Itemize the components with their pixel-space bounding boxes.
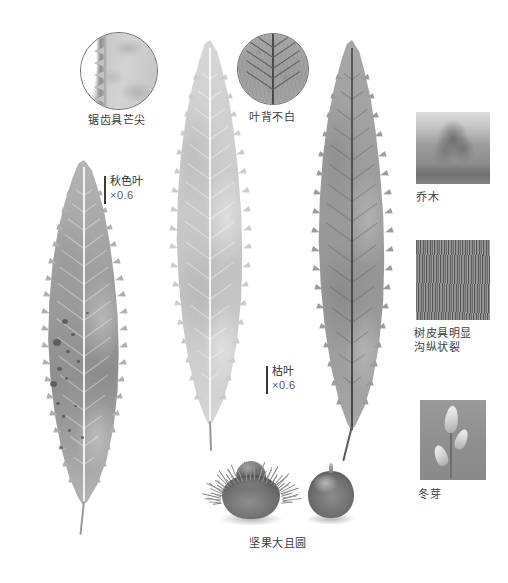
leaf-awn-tooth	[312, 208, 321, 216]
panel-caption-habit: 乔木	[416, 190, 439, 204]
scale-label-text: 秋色叶	[110, 175, 143, 187]
leaf-awn-tooth	[379, 303, 388, 311]
leaf-awn-tooth	[231, 130, 240, 138]
scale-bar-withered-leaf	[266, 366, 268, 394]
leaf-awn-tooth	[117, 359, 126, 367]
leaf-awn-tooth	[359, 399, 368, 407]
serrate-margin-texture	[81, 33, 157, 109]
leaf-awn-tooth	[107, 241, 116, 249]
leaf-awn-tooth	[238, 168, 247, 176]
awn-tooth	[95, 83, 104, 91]
awn-tooth	[95, 95, 104, 103]
detail-circle-serrate-margin	[80, 32, 158, 110]
leaf-awn-tooth	[172, 281, 181, 289]
panel-photo-habit	[416, 112, 490, 184]
burr-spine	[282, 501, 294, 504]
panel-photo-winter-bud	[420, 400, 486, 480]
leaf-awn-tooth	[218, 74, 227, 82]
winter-bud-scale	[444, 406, 460, 434]
panel-caption-winter-bud: 冬芽	[418, 487, 441, 501]
leaf-awn-tooth	[383, 208, 392, 216]
scale-label-autumn-leaf: 秋色叶 ×0.6	[110, 174, 143, 202]
leaf-awn-tooth	[384, 246, 393, 254]
leaf-mature-green	[158, 40, 262, 425]
leaf-awn-tooth	[239, 281, 248, 289]
leaf-petiole	[342, 426, 353, 461]
leaf-awn-tooth	[242, 243, 251, 251]
leaf-awn-tooth	[381, 284, 390, 292]
leaf-awn-tooth	[382, 189, 391, 197]
leaf-awn-tooth	[373, 131, 382, 139]
nut-tip	[329, 463, 333, 473]
chestnut-nut	[308, 462, 354, 520]
leaf-awn-tooth	[116, 376, 125, 384]
scale-label-withered-leaf: 枯叶 ×0.6	[272, 364, 296, 392]
leaf-awn-tooth	[384, 227, 393, 235]
leaf-awn-tooth	[241, 206, 250, 214]
leaf-awn-tooth	[377, 150, 386, 158]
fruit-caption: 坚果大且圆	[249, 536, 307, 550]
leaf-awn-tooth	[118, 308, 127, 316]
detail-circle-serrate-margin-caption: 锯齿具芒尖	[88, 113, 146, 127]
leaf-awn-tooth	[235, 149, 244, 157]
leaf-spot	[68, 429, 71, 432]
scale-magnification: ×0.6	[110, 188, 143, 202]
leaf-awn-tooth	[111, 258, 120, 266]
leaf-awn-tooth	[360, 74, 369, 82]
chestnut-burr	[216, 459, 286, 521]
botanical-plate: 锯齿具芒尖 叶背不白 秋色叶 ×0.6 枯叶 ×0.6	[0, 0, 508, 583]
leaf-awn-tooth	[322, 131, 331, 139]
scale-magnification: ×0.6	[272, 378, 296, 392]
leaf-awn-tooth	[181, 338, 190, 346]
leaf-awn-tooth	[41, 325, 50, 333]
leaf-awn-tooth	[41, 342, 50, 350]
leaf-awn-tooth	[180, 130, 189, 138]
leaf-awn-tooth	[380, 170, 389, 178]
leaf-awn-tooth	[383, 265, 392, 273]
leaf-awn-tooth	[93, 190, 102, 198]
scale-bar-autumn-leaf	[104, 176, 106, 204]
leaf-awn-tooth	[228, 111, 237, 119]
leaf-awn-tooth	[102, 444, 111, 452]
leaf-awn-tooth	[68, 477, 77, 485]
leaf-awn-tooth	[103, 224, 112, 232]
panel-caption-bark-line1: 树皮具明显	[414, 326, 472, 340]
leaf-awn-tooth	[98, 207, 107, 215]
scale-label-text: 枯叶	[272, 365, 294, 377]
leaf-awn-tooth	[370, 112, 379, 120]
leaf-petiole	[209, 421, 212, 451]
leaf-petiole	[79, 501, 85, 535]
leaf-awn-tooth	[226, 357, 235, 365]
awn-tooth	[95, 71, 104, 79]
leaf-spot	[53, 339, 61, 346]
panel-caption-bark: 树皮具明显 沟纵状裂	[414, 326, 472, 354]
leaf-withered	[300, 40, 404, 430]
leaf-awn-tooth	[230, 338, 239, 346]
leaf-awn-tooth	[106, 427, 115, 435]
leaf-awn-tooth	[234, 319, 243, 327]
leaf-awn-tooth	[364, 380, 373, 388]
leaf-awn-tooth	[113, 393, 122, 401]
awn-tooth	[95, 59, 104, 67]
awn-tooth	[95, 47, 104, 55]
leaf-awn-tooth	[174, 168, 183, 176]
leaf-spot	[62, 415, 65, 418]
leaf-awn-tooth	[241, 262, 250, 270]
panel-caption-bark-line2: 沟纵状裂	[414, 340, 472, 354]
leaf-awn-tooth	[118, 325, 127, 333]
leaf-awn-tooth	[114, 274, 123, 282]
leaf-awn-tooth	[217, 394, 226, 402]
leaf-awn-tooth	[237, 300, 246, 308]
nut-body	[308, 471, 354, 517]
leaf-awn-tooth	[242, 224, 251, 232]
leaf-awn-tooth	[118, 342, 127, 350]
leaf-awn-tooth	[110, 410, 119, 418]
leaf-autumn-color	[28, 160, 140, 505]
leaf-awn-tooth	[42, 359, 51, 367]
leaf-spot	[62, 319, 68, 324]
leaf-spot	[65, 377, 68, 380]
winter-bud-scale	[431, 443, 449, 467]
leaf-awn-tooth	[240, 187, 249, 195]
leaf-midrib	[209, 48, 210, 425]
leaf-awn-tooth	[368, 361, 377, 369]
